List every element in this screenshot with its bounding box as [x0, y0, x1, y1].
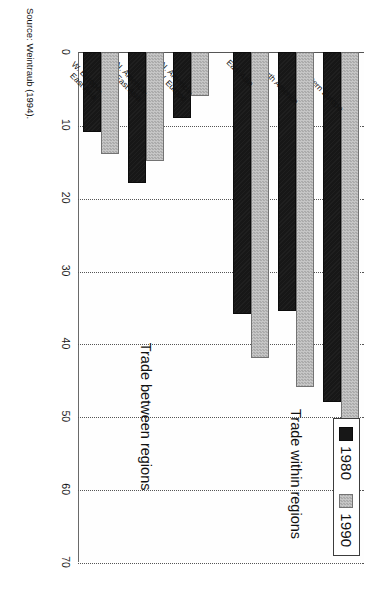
gridline: [78, 417, 364, 418]
bar-1990: [251, 52, 269, 358]
gridline: [78, 490, 364, 491]
legend-item-1980: 1980: [338, 427, 355, 480]
bar-1990: [146, 52, 164, 161]
rotated-figure-wrapper: 010203040506070Western EuropeNorth Ameri…: [0, 0, 382, 592]
legend-swatch-1990: [340, 494, 354, 508]
gridline: [78, 563, 364, 564]
gridline: [78, 344, 364, 345]
source-note: Source: Weintraub (1994).: [25, 8, 36, 119]
gridline: [78, 272, 364, 273]
bar-1990: [296, 52, 314, 387]
axis-tick-label: 60: [60, 483, 72, 495]
section-caption-within: Trade within regions: [288, 409, 304, 539]
legend-label-1990: 1990: [338, 513, 355, 547]
axis-tick-label: 10: [60, 119, 72, 131]
bar-1990: [101, 52, 119, 154]
chart-legend: 1980 1990: [333, 418, 360, 556]
legend-swatch-1980: [340, 427, 354, 441]
gridline: [78, 199, 364, 200]
axis-tick-label: 30: [60, 265, 72, 277]
axis-tick-label: 50: [60, 410, 72, 422]
axis-tick-label: 0: [60, 49, 72, 55]
axis-tick-label: 40: [60, 338, 72, 350]
plot-area: [78, 52, 364, 562]
legend-item-1990: 1990: [338, 494, 355, 547]
gridline: [78, 126, 364, 127]
axis-tick-label: 20: [60, 192, 72, 204]
section-caption-between: Trade between regions: [138, 343, 154, 491]
chart-figure: 010203040506070Western EuropeNorth Ameri…: [0, 0, 382, 592]
legend-label-1980: 1980: [338, 446, 355, 480]
bar-1980: [233, 52, 251, 314]
axis-tick-label: 70: [60, 556, 72, 568]
